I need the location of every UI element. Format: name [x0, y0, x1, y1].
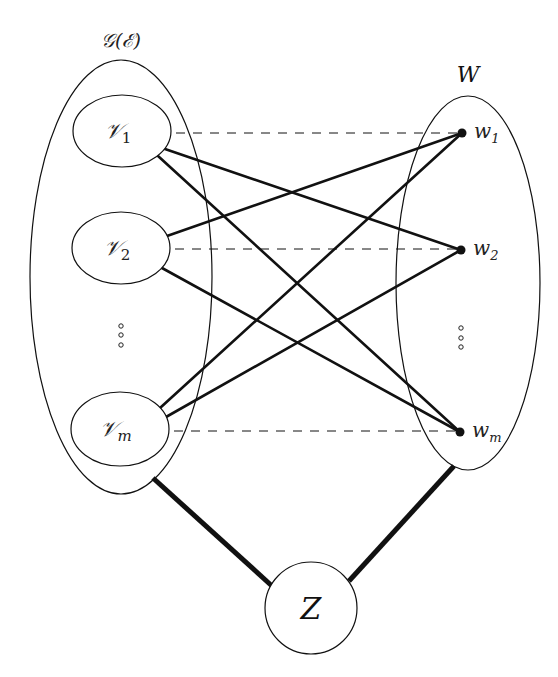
right-set-label: W — [457, 62, 482, 87]
dot — [119, 333, 123, 337]
hub-edge-hub-right_group — [349, 466, 454, 581]
node-dot — [456, 428, 465, 437]
edge-v1-w2 — [165, 149, 461, 250]
node-label: w1 — [474, 119, 499, 146]
hub-edge-left_group-hub — [153, 478, 272, 586]
edge-v2-w1 — [167, 133, 462, 236]
solid-edges — [158, 133, 462, 432]
hub-label: Z — [300, 591, 323, 626]
right-set-ellipse — [396, 96, 540, 470]
right-ellipsis-dots — [459, 326, 463, 349]
edge-vm-w1 — [160, 133, 462, 408]
dashed-edges — [174, 133, 458, 431]
dot — [119, 343, 123, 347]
right-nodes: w1w2wm — [456, 119, 502, 445]
node-v1: 𝒱1 — [73, 95, 171, 167]
hub-node-z: Z — [265, 562, 357, 654]
node-label: w2 — [473, 236, 498, 263]
dot — [459, 345, 463, 349]
node-w2: w2 — [457, 236, 499, 263]
left-ellipsis-dots — [119, 324, 123, 347]
node-w1: w1 — [458, 119, 500, 146]
node-dot — [457, 246, 466, 255]
dot — [119, 324, 123, 328]
left-set-label: 𝒢(ℰ) — [101, 29, 141, 51]
left-nodes: 𝒱1𝒱2𝒱m — [71, 95, 171, 466]
node-vm: 𝒱m — [71, 392, 169, 466]
node-v2: 𝒱2 — [72, 212, 170, 284]
node-dot — [458, 129, 467, 138]
dot — [459, 326, 463, 330]
bipartite-diagram: 𝒢(ℰ) W 𝒱1𝒱2𝒱m w1w2wm Z — [0, 0, 558, 677]
node-wm: wm — [456, 418, 502, 445]
dot — [459, 336, 463, 340]
node-label: wm — [472, 418, 501, 445]
